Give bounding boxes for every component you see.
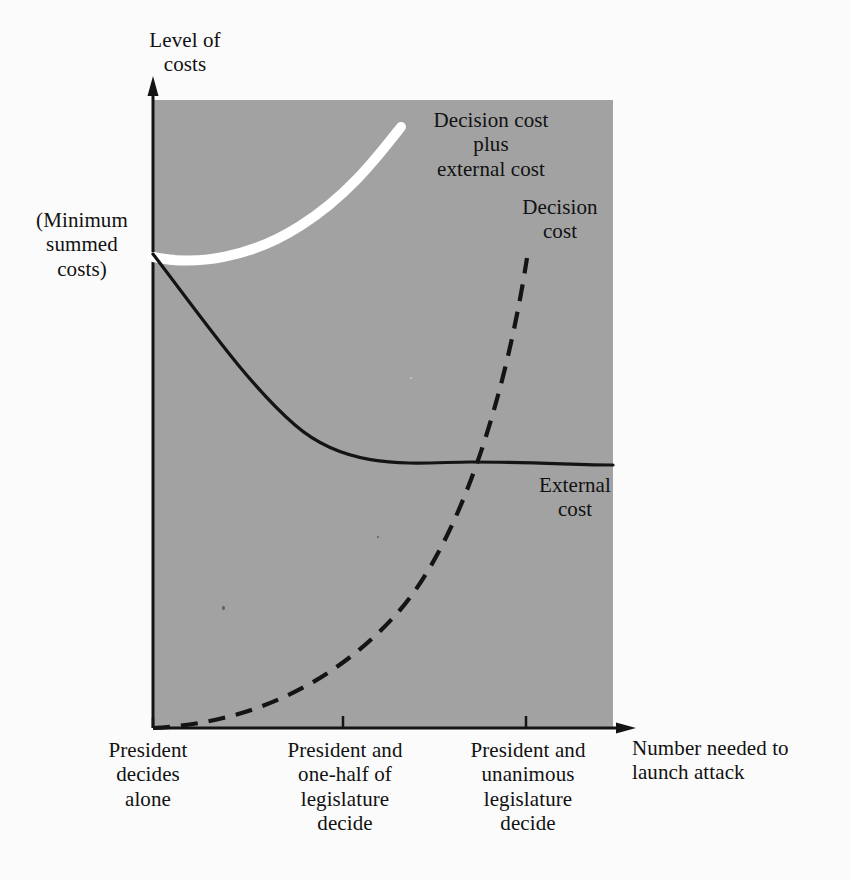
decision-cost-curve-label: Decision cost	[480, 195, 640, 244]
x-axis-title: Number needed to launch attack	[632, 736, 842, 785]
print-speck	[222, 606, 225, 610]
summed-cost-curve-label: Decision cost plus external cost	[396, 108, 586, 181]
external-cost-curve-label: External cost	[500, 473, 650, 522]
x-axis-category-1: President and one-half of legislature de…	[245, 738, 445, 835]
x-axis-category-2: President and unanimous legislature deci…	[428, 738, 628, 835]
minimum-summed-costs-annotation: (Minimum summed costs)	[12, 208, 152, 281]
figure-container: Level of costs (Minimum summed costs) De…	[0, 0, 851, 880]
y-axis-title: Level of costs	[100, 28, 270, 77]
print-speck	[377, 536, 379, 538]
x-axis-category-0: President decides alone	[48, 738, 248, 811]
print-speck	[410, 377, 412, 379]
